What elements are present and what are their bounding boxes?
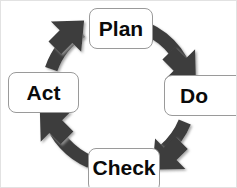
node-act[interactable]: Act [8, 72, 79, 113]
pdca-cycle-diagram: Plan Do Check Act [0, 0, 237, 188]
node-check-label: Check [92, 157, 155, 178]
node-check[interactable]: Check [88, 148, 160, 188]
node-do-label: Do [180, 85, 208, 106]
node-plan-label: Plan [99, 18, 143, 39]
node-do[interactable]: Do [164, 75, 237, 116]
node-plan[interactable]: Plan [89, 8, 153, 49]
node-act-label: Act [27, 82, 61, 103]
